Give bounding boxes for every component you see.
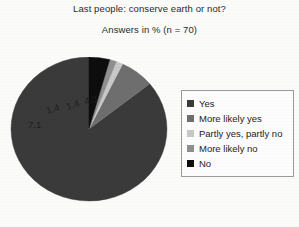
pie-plot-area: 85.8 7.1 1.4 1.4 4.3	[10, 57, 170, 203]
legend-swatch-icon	[187, 145, 194, 152]
legend-item-label: More likely no	[199, 141, 258, 156]
legend-swatch-icon	[187, 160, 194, 167]
pie-chart-figure: Last people: conserve earth or not? Answ…	[0, 0, 299, 227]
slice-value-label-more-likely-yes: 7.1	[28, 119, 41, 130]
pie-svg	[10, 57, 170, 203]
legend-swatch-icon	[187, 100, 194, 107]
legend-swatch-icon	[187, 115, 194, 122]
legend-item-label: No	[199, 156, 211, 171]
legend-item[interactable]: Yes	[187, 96, 289, 111]
legend-swatch-icon	[187, 130, 194, 137]
legend-item-label: Yes	[199, 96, 215, 111]
chart-subtitle: Answers in % (n = 70)	[0, 24, 299, 35]
legend-item[interactable]: No	[187, 156, 289, 171]
legend-item-label: More likely yes	[199, 111, 262, 126]
legend-item[interactable]: More likely no	[187, 141, 289, 156]
chart-legend: YesMore likely yesPartly yes, partly noM…	[181, 90, 294, 177]
legend-item-label: Partly yes, partly no	[199, 126, 282, 141]
legend-item[interactable]: Partly yes, partly no	[187, 126, 289, 141]
chart-title: Last people: conserve earth or not?	[0, 3, 299, 14]
legend-item[interactable]: More likely yes	[187, 111, 289, 126]
